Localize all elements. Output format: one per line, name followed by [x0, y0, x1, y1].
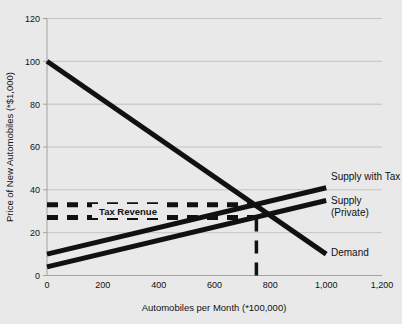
x-tick-label-0: 0	[44, 280, 49, 290]
x-tick-label-1000: 1,000	[315, 280, 338, 290]
x-tick-label-600: 600	[207, 280, 222, 290]
y-tick-label-40: 40	[30, 185, 40, 195]
x-tick-label-400: 400	[151, 280, 166, 290]
supply-private-label-line2: (Private)	[331, 207, 369, 218]
y-tick-label-20: 20	[30, 228, 40, 238]
tax-revenue-label: Tax Revenue	[99, 206, 157, 217]
demand-label: Demand	[331, 247, 369, 258]
y-tick-label-0: 0	[35, 271, 40, 281]
supply-with-tax-label: Supply with Tax	[331, 171, 400, 182]
y-axis-title: Price of New Automobiles (*$1,000)	[4, 72, 15, 222]
x-tick-label-200: 200	[95, 280, 110, 290]
y-tick-label-80: 80	[30, 100, 40, 110]
x-axis-title: Automobiles per Month (*100,000)	[142, 302, 287, 313]
x-tick-label-800: 800	[263, 280, 278, 290]
chart-canvas: 120 100 80 60 40 20 0 0 200 400 600 800 …	[0, 0, 402, 324]
x-tick-label-1200: 1,200	[371, 280, 394, 290]
economics-supply-demand-chart: 120 100 80 60 40 20 0 0 200 400 600 800 …	[0, 0, 402, 324]
y-tick-label-60: 60	[30, 142, 40, 152]
y-tick-label-100: 100	[25, 57, 40, 67]
y-tick-label-120: 120	[25, 14, 40, 24]
supply-private-label-line1: Supply	[331, 195, 362, 206]
